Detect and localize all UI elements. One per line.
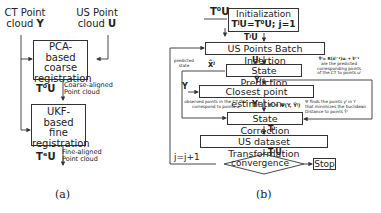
fine-aligned-label: Fine-aligned Point cloud [62,149,102,163]
ukf-registration-box: UKF-based fine registration [31,104,86,146]
predicted-state-label: predicted state [172,59,196,69]
predicted-state-var: x̂ʲ [208,60,215,69]
closest-point-box: Closest point estimation [199,85,314,98]
us-point-cloud-label: US Point cloud U [74,7,120,29]
loop-label: j=j+1 [174,152,200,162]
state-prediction-box: State Prediction [226,64,302,77]
transformation-box: US dataset Transformation [200,135,328,148]
correction-out-var: Tʲ [268,125,275,134]
batch-insertion-box: US Points Batch Insertion [205,42,325,55]
coarse-output-var: T⁰U [36,83,55,94]
prediction-note: Ŷʲ= R(x̂ʲ⁻¹)uᵢ + t̂ʲ⁻¹ are the predicted… [305,57,373,76]
prediction-out-var: Ŷʲ [254,76,262,85]
state-correction-box: State Correction [227,112,303,125]
init-input-var: T⁰U [210,6,229,17]
caption-b: (b) [256,188,272,201]
stop-box: Stop [313,158,336,170]
transform-out-var: TʲU [268,148,282,157]
coarse-aligned-label: Coarse-aligned Point cloud [64,82,113,96]
closest-formula: Yʲ = Ψ(Y, Ŷʲ) [268,102,300,108]
pca-registration-box: PCA-based coarse registration [33,40,88,80]
observed-points-note: observed points in the CT that correspon… [182,100,250,110]
initialization-box: Initialization TʲU=T⁰U; j=1 [228,8,299,32]
convergence-label: convergence [231,158,289,168]
ct-point-cloud-label: CT Point cloud Y [4,7,46,29]
after-init-var: TʲU [244,33,258,42]
caption-a: (a) [55,188,70,201]
ct-input-var: Y [182,82,188,91]
fine-output-var: TᵉU [36,151,56,162]
closest-out-var: Yʲ [252,100,260,109]
psi-note: Ψ finds the points yʲ in Y that minimize… [305,100,369,114]
